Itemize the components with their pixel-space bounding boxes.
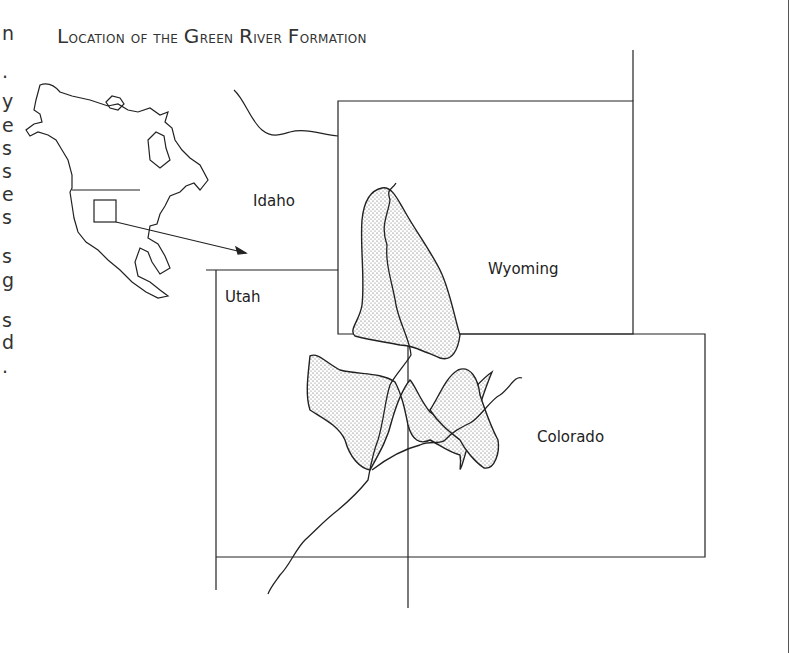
label-colorado: Colorado xyxy=(537,428,604,446)
north-america-outline xyxy=(26,84,208,298)
green-river-basin xyxy=(353,188,460,359)
label-utah: Utah xyxy=(225,288,261,306)
arrow-head xyxy=(236,247,246,254)
green-river-map xyxy=(0,0,794,653)
greenland-outline xyxy=(106,96,124,110)
idaho-montana-border xyxy=(234,90,338,136)
locator-arrow xyxy=(116,222,246,253)
locator-box xyxy=(94,200,116,222)
label-idaho: Idaho xyxy=(253,192,295,210)
label-wyoming: Wyoming xyxy=(488,260,558,278)
hudson-bay-outline xyxy=(148,132,170,168)
